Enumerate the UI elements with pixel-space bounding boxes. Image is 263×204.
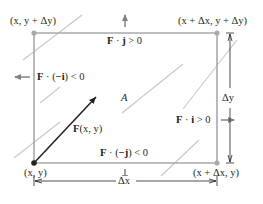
corner-label-bottom-left: (x, y) — [24, 168, 47, 179]
corner-point-bottom-right — [214, 160, 219, 165]
vector-label: F(x, y) — [73, 124, 102, 135]
dimension-label-delta-y: Δy — [222, 92, 234, 105]
edge-label-bottom-normal: −j — [119, 147, 128, 158]
corner-point-top-left — [31, 30, 36, 35]
edge-label-left: F · (−i) < 0 — [37, 72, 85, 83]
edge-label-top: F · j > 0 — [107, 36, 142, 47]
corner-label-top-left: (x, y + Δy) — [10, 16, 56, 27]
corner-label-bottom-right: (x + Δx, y) — [193, 168, 239, 179]
region-label: A — [121, 93, 127, 104]
edge-label-left-normal: −i — [56, 71, 65, 82]
corner-label-top-right: (x + Δx, y + Δy) — [178, 16, 247, 27]
corner-point-top-right — [214, 30, 219, 35]
edge-label-bottom: F · (−j) < 0 — [100, 148, 148, 159]
dimension-label-delta-x: Δx — [117, 176, 131, 187]
edge-label-right: F · i > 0 — [176, 115, 211, 126]
